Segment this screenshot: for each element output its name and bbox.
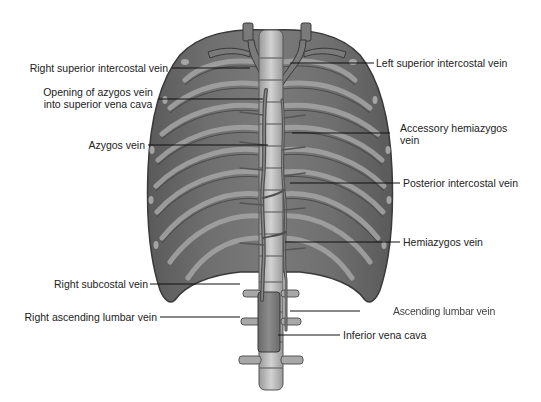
label-right-ascending-lumbar-vein: Right ascending lumbar vein xyxy=(25,311,158,323)
label-right-subcostal-vein: Right subcostal vein xyxy=(54,278,148,290)
label-accessory-hemiazygos-line2: vein xyxy=(400,134,507,146)
label-posterior-intercostal-vein: Posterior intercostal vein xyxy=(403,177,518,189)
anatomy-figure: Right superior intercostal vein Opening … xyxy=(0,0,541,402)
label-opening-azygos: Opening of azygos vein into superior ven… xyxy=(40,86,156,110)
label-azygos-vein: Azygos vein xyxy=(88,139,145,151)
label-left-superior-intercostal-vein: Left superior intercostal vein xyxy=(376,57,507,69)
label-accessory-hemiazygos-vein: Accessory hemiazygos vein xyxy=(400,122,507,146)
label-right-superior-intercostal-vein: Right superior intercostal vein xyxy=(30,62,168,74)
label-hemiazygos-vein: Hemiazygos vein xyxy=(403,236,483,248)
label-opening-azygos-line2: into superior vena cava xyxy=(40,98,156,110)
label-opening-azygos-line1: Opening of azygos vein xyxy=(40,86,156,98)
label-accessory-hemiazygos-line1: Accessory hemiazygos xyxy=(400,122,507,134)
label-ascending-lumbar-vein: Ascending lumbar vein xyxy=(393,305,495,317)
label-inferior-vena-cava: Inferior vena cava xyxy=(343,329,426,341)
